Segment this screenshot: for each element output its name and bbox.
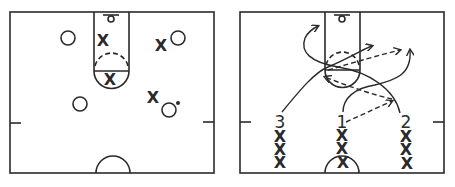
offense-player-with-ball [162,103,176,117]
free-throw-lane [325,12,360,70]
center-circle-half [96,156,130,173]
defense-player: X [104,70,117,89]
defense-player: X [97,31,110,50]
free-throw-circle-top-dashed [95,53,128,66]
right-court: 3 1 2 X X X X X X X X X [240,12,444,173]
basket-hoop [108,16,114,22]
cut-path-2 [304,26,400,113]
defense-player: X [147,88,160,107]
offense-player [171,31,185,45]
defense-player: X [155,36,168,55]
ball-icon [176,101,180,105]
left-court: X X X X [10,12,214,173]
waiting-player: X [274,153,287,172]
pass-path [325,77,392,99]
waiting-player: X [337,153,350,172]
offense-player [73,97,87,111]
offense-player [61,31,75,45]
pass-path [346,101,392,122]
basket-hoop [339,16,345,22]
diagram-canvas: X X X X 3 1 2 X X X X X X X X [0,0,455,187]
court-boundary [10,12,214,173]
waiting-player: X [401,154,414,173]
